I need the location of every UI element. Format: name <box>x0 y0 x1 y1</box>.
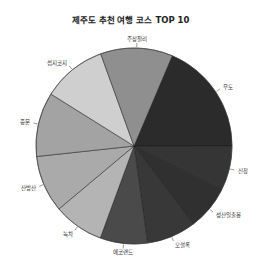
label-leader-line <box>34 123 38 124</box>
label-leader-line <box>217 89 220 91</box>
slice-label: 주상절리 <box>127 35 147 43</box>
slice-label: 중문 <box>20 119 30 125</box>
slice-label: 녹차 <box>63 230 73 238</box>
slice-label: 성산일출봉 <box>216 211 241 218</box>
slice-label: 섭지코지 <box>47 59 67 67</box>
label-leader-line <box>230 169 234 170</box>
slice-label: 오설록 <box>175 241 190 249</box>
label-leader-line <box>172 237 174 241</box>
label-leader-line <box>39 185 43 187</box>
slice-label: 에코랜드 <box>113 248 133 256</box>
slice-label: 우도 <box>223 84 233 91</box>
pie-chart: 우도신창성산일출봉오설록에코랜드녹차산방산중문섭지코지주상절리 <box>0 0 261 275</box>
slice-label: 신창 <box>238 167 248 174</box>
label-leader-line <box>69 66 72 69</box>
slice-label: 산방산 <box>21 184 36 191</box>
label-leader-line <box>75 227 77 230</box>
label-leader-line <box>210 210 213 213</box>
